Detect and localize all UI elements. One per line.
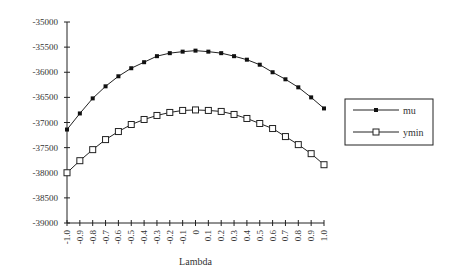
y-axis: -35000-35500-36000-36500-37000-37500-380… [33,17,71,228]
x-axis-title: Lambda [179,256,212,267]
data-point-ymin [244,115,250,121]
data-point-mu [181,50,185,54]
data-point-mu [206,50,210,54]
y-tick-label: -37000 [33,118,59,128]
x-tick-label: -0.9 [75,230,85,245]
data-point-mu [296,85,300,89]
data-point-mu [258,63,262,67]
data-point-mu [78,111,82,115]
data-point-mu [232,54,236,58]
x-tick-label: -0.7 [101,230,111,245]
x-tick-label: -0.4 [139,230,149,245]
data-point-mu [194,49,198,53]
x-tick-label: 0.3 [229,230,239,242]
x-tick-label: 0.7 [280,230,290,242]
data-point-mu [104,84,108,88]
legend: muymin [345,99,433,145]
data-point-ymin [77,158,83,164]
data-point-ymin [295,142,301,148]
x-tick-label: -0.5 [126,230,136,245]
line-chart: -35000-35500-36000-36500-37000-37500-380… [0,0,455,273]
data-point-mu [91,96,95,100]
x-tick-label: 0.1 [203,230,213,241]
y-tick-label: -36000 [33,67,59,77]
data-point-ymin [282,134,288,140]
legend-marker [374,108,378,112]
data-point-mu [245,58,249,62]
data-point-mu [65,128,69,132]
y-tick-label: -36500 [33,92,59,102]
data-point-ymin [141,116,147,122]
legend-label: mu [403,105,416,116]
data-point-ymin [308,151,314,157]
x-tick-label: 0.5 [255,230,265,242]
y-tick-label: -35000 [33,17,59,27]
legend-marker [373,129,379,135]
series-ymin [64,107,327,176]
x-tick-label: 0.8 [293,230,303,242]
data-point-ymin [115,129,121,135]
data-point-mu [309,95,313,99]
data-point-ymin [218,108,224,114]
series-line-mu [67,51,324,130]
x-tick-label: -0.1 [178,230,188,244]
x-tick-label: 1.0 [319,230,329,242]
data-point-ymin [64,170,70,176]
x-tick-label: 0.9 [306,230,316,242]
series-mu [65,49,326,132]
data-point-ymin [321,162,327,168]
data-point-mu [155,54,159,58]
data-point-mu [129,66,133,70]
x-tick-label: 0.2 [216,230,226,241]
series-layer [64,49,327,176]
legend-label: ymin [403,127,424,138]
data-point-ymin [231,111,237,117]
data-point-mu [168,51,172,55]
x-tick-label: 0.4 [242,230,252,242]
y-tick-label: -38000 [33,168,59,178]
data-point-mu [142,60,146,64]
y-tick-label: -37500 [33,143,59,153]
data-point-ymin [128,122,134,128]
data-point-mu [322,106,326,110]
x-tick-label: -0.3 [152,230,162,245]
y-tick-label: -39000 [33,218,59,228]
x-tick-label: 0.6 [268,230,278,242]
data-point-mu [116,74,120,78]
y-tick-label: -35500 [33,42,59,52]
y-tick-label: -38500 [33,193,59,203]
x-tick-label: -0.6 [113,230,123,245]
data-point-ymin [180,107,186,113]
x-tick-label: -0.8 [88,230,98,245]
legend-box [345,99,433,145]
x-tick-label: -0.2 [165,230,175,244]
data-point-mu [283,77,287,81]
x-tick-label: -1.0 [62,230,72,245]
data-point-ymin [193,107,199,113]
x-axis: -1.0-0.9-0.8-0.7-0.6-0.5-0.4-0.3-0.2-0.1… [62,220,329,244]
data-point-ymin [257,121,263,127]
data-point-ymin [270,126,276,132]
data-point-mu [219,51,223,55]
data-point-ymin [205,107,211,113]
data-point-ymin [103,137,109,143]
data-point-ymin [167,109,173,115]
data-point-ymin [154,112,160,118]
x-tick-label: 0 [191,230,201,235]
data-point-mu [271,70,275,74]
data-point-ymin [90,147,96,153]
